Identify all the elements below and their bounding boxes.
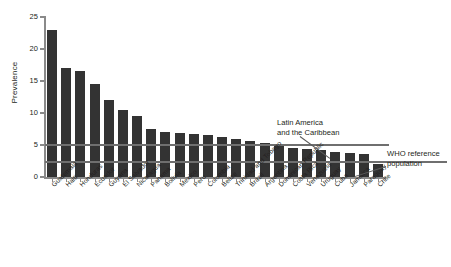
- bar: [47, 30, 57, 177]
- x-axis-tick: [307, 178, 308, 182]
- reference-line-lac: [45, 144, 389, 146]
- x-axis-tick: [265, 178, 266, 182]
- y-axis-tick-labels: 0510152025: [0, 0, 38, 267]
- annotation-who-reference: WHO reference population: [387, 149, 440, 168]
- y-axis-tick-label: 10: [4, 109, 38, 117]
- x-axis-tick: [109, 178, 110, 182]
- y-axis-tick-label: 25: [4, 13, 38, 21]
- x-axis-tick: [194, 178, 195, 182]
- plot-area: [45, 17, 385, 177]
- annotation-who-reference-line2: population: [387, 159, 440, 169]
- x-axis-tick: [52, 178, 53, 182]
- x-axis-tick: [208, 178, 209, 182]
- y-axis-tick: [40, 144, 44, 146]
- y-axis-tick-label: 15: [4, 77, 38, 85]
- x-axis-tick: [236, 178, 237, 182]
- annotation-latin-america-line2: and the Caribbean: [277, 128, 340, 138]
- annotation-latin-america: Latin America and the Caribbean: [277, 118, 340, 137]
- x-axis-tick: [95, 178, 96, 182]
- y-axis-tick-label: 0: [4, 173, 38, 181]
- y-axis-tick: [40, 48, 44, 50]
- x-axis-tick: [222, 178, 223, 182]
- x-axis-tick: [137, 178, 138, 182]
- x-axis-tick: [364, 178, 365, 182]
- y-axis-tick: [40, 80, 44, 82]
- x-axis-tick: [80, 178, 81, 182]
- x-axis-tick: [250, 178, 251, 182]
- x-axis-tick: [350, 178, 351, 182]
- annotation-latin-america-line1: Latin America: [277, 118, 340, 128]
- annotation-who-reference-line1: WHO reference: [387, 149, 440, 159]
- y-axis-tick: [40, 112, 44, 114]
- y-axis-tick: [40, 16, 44, 18]
- bar: [203, 135, 213, 177]
- x-axis-tick: [123, 178, 124, 182]
- x-axis-tick: [165, 178, 166, 182]
- x-axis-tick: [335, 178, 336, 182]
- y-axis-tick: [40, 176, 44, 178]
- x-axis-tick: [279, 178, 280, 182]
- x-axis-category-labels: GuatemalaHaitiHondurasEcuadorGuyanaEl Sa…: [45, 183, 451, 267]
- x-axis-tick: [378, 178, 379, 182]
- y-axis-tick-label: 5: [4, 141, 38, 149]
- x-axis-tick: [180, 178, 181, 182]
- x-axis-tick: [293, 178, 294, 182]
- x-axis-tick: [321, 178, 322, 182]
- y-axis-tick-label: 20: [4, 45, 38, 53]
- x-axis-tick: [151, 178, 152, 182]
- x-axis-tick: [66, 178, 67, 182]
- prevalence-bar-chart: Prevalence 0510152025 GuatemalaHaitiHond…: [0, 0, 451, 267]
